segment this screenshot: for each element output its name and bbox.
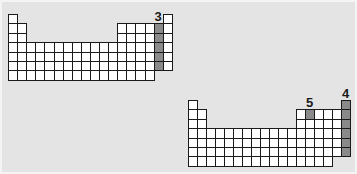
element-cell bbox=[163, 61, 173, 71]
element-cell bbox=[145, 70, 155, 81]
label-3: 3 bbox=[155, 10, 162, 23]
label-4: 4 bbox=[342, 87, 349, 100]
element-cell bbox=[341, 147, 351, 157]
element-cell bbox=[323, 156, 333, 167]
label-5: 5 bbox=[306, 96, 313, 109]
